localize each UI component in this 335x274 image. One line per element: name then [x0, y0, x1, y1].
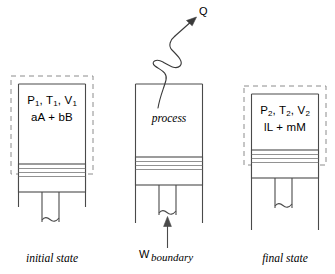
state-properties-final: P2, T2, V2 — [251, 104, 319, 118]
diagram-canvas: P1, T1, V1 aA + bB process P2, T2, V2 lL… — [0, 0, 335, 274]
caption-final-state: final state — [242, 252, 328, 264]
work-arrow-head — [164, 217, 172, 227]
state-text-initial: P1, T1, V1 aA + bB — [18, 94, 86, 123]
piston-rod-break-initial — [42, 218, 59, 222]
work-label: Wboundary — [139, 249, 193, 263]
panel-process — [136, 17, 203, 248]
heat-squiggle-path — [153, 36, 181, 108]
state-reactants-initial: aA + bB — [18, 111, 86, 123]
state-products-final: lL + mM — [251, 121, 319, 133]
heat-label: Q — [199, 6, 208, 18]
caption-initial-state: initial state — [9, 252, 95, 264]
diagram-vector-layer — [0, 0, 335, 274]
state-text-final: P2, T2, V2 lL + mM — [251, 104, 319, 133]
state-properties-initial: P1, T1, V1 — [18, 94, 86, 108]
work-label-symbol: W — [139, 248, 149, 260]
work-label-subscript: boundary — [149, 251, 193, 263]
piston-rod-break-final — [275, 204, 292, 208]
piston-rod-break-process — [159, 211, 176, 215]
system-boundary-dashed-initial — [11, 76, 93, 174]
process-label: process — [135, 112, 203, 124]
